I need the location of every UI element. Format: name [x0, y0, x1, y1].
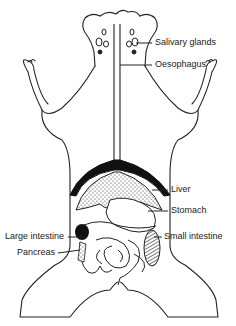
label-pancreas: Pancreas: [17, 247, 55, 257]
label-stomach: Stomach: [171, 205, 207, 215]
label-small-intestine: Small intestine: [164, 231, 223, 241]
pancreas: [78, 242, 86, 262]
label-large-intestine: Large intestine: [5, 231, 64, 241]
rat-digestive-diagram: Salivary glands Oesophagus Liver Stomach…: [0, 0, 236, 326]
salivary-glands: [96, 29, 138, 54]
label-oesophagus: Oesophagus: [155, 59, 206, 69]
caecum: [75, 224, 89, 240]
label-salivary-glands: Salivary glands: [155, 37, 216, 47]
oesophagus: [114, 24, 120, 170]
diagram-drawing: [0, 0, 236, 326]
label-liver: Liver: [171, 184, 191, 194]
small-intestine: [144, 230, 160, 266]
